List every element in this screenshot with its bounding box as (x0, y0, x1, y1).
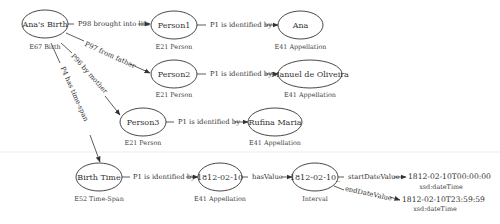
node-label: Ana's Birth (21, 20, 67, 29)
node-label: 1812-02-10_ (290, 173, 340, 182)
node-interval: 1812-02-10_ Interval (290, 163, 340, 203)
literal-value: 1812-02-10T23:59:59 (402, 195, 485, 204)
node-type: E21 Person (156, 43, 193, 51)
node-label: Ana (292, 21, 309, 30)
edge-p1-person3: P1 is identified by (166, 118, 248, 126)
edge-label-p1-person3: P1 is identified by (178, 118, 240, 126)
node-type: Interval (302, 195, 328, 203)
edge-label-p1-birth-time: P1 is identified by (133, 173, 195, 181)
literal-start-date: 1812-02-10T00:00:00 xsd:dateTime (408, 172, 491, 190)
node-manuel-de-oliveira: Manuel de Oliveira E41 Appellation (271, 60, 349, 99)
node-ana: Ana E41 Appellation (275, 11, 327, 51)
node-label: Person1 (158, 21, 191, 30)
node-type: E41 Appellation (284, 91, 336, 99)
node-type: E67 Birth (29, 43, 60, 51)
edge-p1-person2: P1 is identified by (197, 70, 278, 78)
node-label: 1812-02-10 (197, 173, 243, 182)
node-type: E52 Time-Span (74, 195, 124, 203)
node-type: E21 Person (125, 139, 162, 147)
node-type: E41 Appellation (194, 195, 246, 203)
node-label: Rufina Maria (248, 118, 301, 127)
cidoc-crm-diagram: P98 brought into life P97 from father P9… (0, 0, 500, 224)
literal-type: xsd:dateTime (413, 205, 457, 213)
literal-value: 1812-02-10T00:00:00 (408, 172, 491, 181)
node-type: E41 Appellation (249, 139, 301, 147)
node-person3: Person3 E21 Person (120, 108, 166, 147)
node-type: E41 Appellation (275, 43, 327, 51)
edge-p98: P98 brought into life (68, 20, 150, 28)
node-birth-time: Birth Time E52 Time-Span (74, 163, 124, 203)
edge-label-has-value: hasValue (252, 173, 283, 181)
node-person1: Person1 E21 Person (151, 11, 197, 51)
node-anas-birth: Ana's Birth E67 Birth (21, 10, 68, 51)
edge-has-value: hasValue (242, 173, 292, 181)
edge-label-p97: P97 from father (83, 40, 137, 70)
literal-type: xsd:dateTime (419, 183, 463, 191)
node-label: Birth Time (77, 173, 121, 182)
edge-p1-birth-time: P1 is identified by (122, 173, 198, 181)
node-label: Manuel de Oliveira (271, 70, 349, 79)
node-date-appellation: 1812-02-10 E41 Appellation (194, 163, 246, 203)
node-label: Person2 (158, 70, 191, 79)
node-person2: Person2 E21 Person (151, 60, 197, 99)
edge-label-p1-person2: P1 is identified by (210, 70, 272, 78)
edge-label-start-date-value: startDateValue (348, 173, 399, 181)
edge-start-date-value: startDateValue (338, 173, 406, 181)
edge-label-p1-person1: P1 is identified by (210, 21, 272, 29)
node-label: Person3 (127, 118, 160, 127)
edge-end-date-value: endDateValue (334, 185, 400, 203)
node-type: E21 Person (156, 91, 193, 99)
edge-label-end-date-value: endDateValue (344, 185, 393, 203)
literal-end-date: 1812-02-10T23:59:59 xsd:dateTime (402, 195, 485, 212)
node-rufina-maria: Rufina Maria E41 Appellation (248, 108, 302, 147)
edge-p1-person1: P1 is identified by (197, 21, 278, 29)
